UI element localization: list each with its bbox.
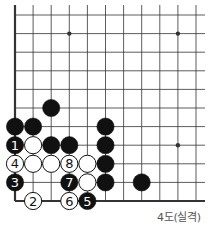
stones: 14837265 <box>6 99 150 209</box>
black-stone <box>61 137 78 154</box>
black-stone <box>43 99 60 116</box>
black-stone-1: 1 <box>6 137 23 154</box>
move-number: 1 <box>11 138 19 153</box>
white-stone <box>79 174 96 191</box>
go-board: 14837265 <box>0 0 211 225</box>
move-number: 4 <box>11 156 19 171</box>
black-stone <box>97 118 114 135</box>
star-point <box>176 143 180 147</box>
black-stone-7: 7 <box>61 174 78 191</box>
black-stone <box>24 118 41 135</box>
white-stone <box>24 137 41 154</box>
white-stone <box>79 155 96 172</box>
white-stone <box>43 155 60 172</box>
diagram-caption: 4도(실격) <box>157 208 201 224</box>
move-number: 7 <box>65 175 73 190</box>
white-stone-2: 2 <box>24 192 41 209</box>
black-stone <box>6 118 23 135</box>
black-stone <box>97 137 114 154</box>
move-number: 2 <box>29 194 37 209</box>
white-stone-6: 6 <box>61 192 78 209</box>
move-number: 3 <box>11 175 19 190</box>
black-stone <box>97 174 114 191</box>
star-point <box>176 31 180 35</box>
star-point <box>67 31 71 35</box>
black-stone <box>97 155 114 172</box>
black-stone-5: 5 <box>79 192 96 209</box>
black-stone <box>43 137 60 154</box>
move-number: 5 <box>83 194 91 209</box>
white-stone-4: 4 <box>6 155 23 172</box>
black-stone-3: 3 <box>6 174 23 191</box>
move-number: 6 <box>65 194 73 209</box>
black-stone <box>133 174 150 191</box>
white-stone <box>24 155 41 172</box>
white-stone-8: 8 <box>61 155 78 172</box>
move-number: 8 <box>65 156 73 171</box>
